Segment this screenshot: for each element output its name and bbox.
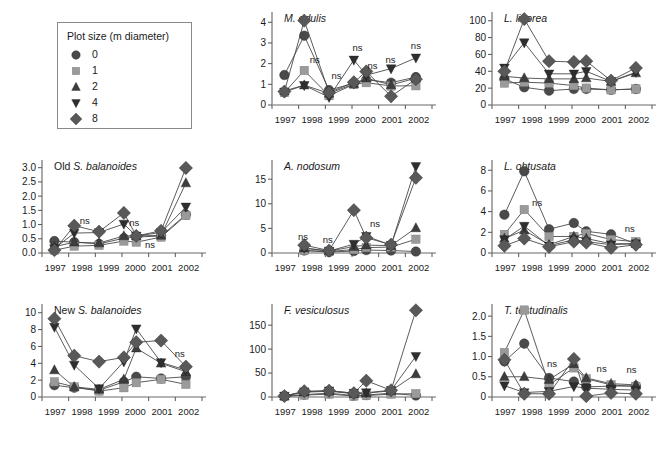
x-tick-label: 2002 <box>408 114 429 125</box>
x-tick-label: 2000 <box>575 114 596 125</box>
panel-l-obtusata: 02468199719981999200020012002L. obtusata… <box>452 152 664 293</box>
y-tick-label: 8 <box>30 324 36 335</box>
y-tick-label: 0.0 <box>22 247 36 258</box>
ns-annotation: ns <box>331 70 341 81</box>
square-marker-icon <box>69 64 82 77</box>
ns-annotation: ns <box>145 239 155 250</box>
x-tick-label: 2002 <box>178 406 199 417</box>
y-tick-label: 150 <box>249 320 266 331</box>
y-tick-label: 1.5 <box>22 205 36 216</box>
ns-annotation: ns <box>129 217 139 228</box>
panel-title: New S. balanoides <box>54 304 142 316</box>
y-tick-label: 10 <box>255 198 267 209</box>
x-tick-label: 1998 <box>301 114 322 125</box>
y-tick-label: 40 <box>475 66 487 77</box>
x-tick-label: 2002 <box>408 262 429 273</box>
plot-old-s-balanoides: 0.00.51.01.52.02.53.01997199819992000200… <box>2 152 214 293</box>
y-tick-label: 2 <box>260 58 266 69</box>
panel-old-s-balanoides: 0.00.51.01.52.02.53.01997199819992000200… <box>2 152 214 293</box>
ns-annotation: ns <box>532 197 542 208</box>
x-tick-label: 1997 <box>45 406 66 417</box>
x-tick-label: 1999 <box>98 262 119 273</box>
series-markers-8 <box>48 312 193 373</box>
x-tick-label: 2000 <box>355 406 376 417</box>
x-tick-label: 1997 <box>275 406 296 417</box>
plot-a-nodosum: 051015199719981999200020012002A. nodosum… <box>232 152 444 293</box>
figure-panel-grid: Plot size (m diameter) 01248 01234199719… <box>0 0 670 449</box>
x-tick-label: 1999 <box>548 406 569 417</box>
x-tick-label: 2002 <box>628 262 649 273</box>
legend-entry-label: 8 <box>92 113 98 124</box>
y-tick-label: 2.0 <box>22 191 36 202</box>
x-tick-label: 2002 <box>408 406 429 417</box>
y-tick-label: 6 <box>480 185 486 196</box>
y-tick-label: 1.0 <box>22 219 36 230</box>
y-tick-label: 50 <box>255 367 267 378</box>
triangle-down-marker-icon <box>69 96 82 109</box>
x-tick-label: 1998 <box>71 262 92 273</box>
y-tick-label: 0 <box>30 391 36 402</box>
y-tick-label: 2.5 <box>22 176 36 187</box>
x-tick-label: 1999 <box>548 114 569 125</box>
series-line-2 <box>304 228 416 251</box>
x-tick-label: 2000 <box>575 406 596 417</box>
ns-annotation: ns <box>367 60 377 71</box>
y-tick-label: 2 <box>480 227 486 238</box>
y-tick-label: 100 <box>469 15 486 26</box>
y-tick-label: 20 <box>475 83 487 94</box>
legend-entry-label: 2 <box>92 81 98 92</box>
y-tick-label: 2.0 <box>472 311 486 322</box>
y-tick-label: 5 <box>260 223 266 234</box>
ns-annotation: ns <box>370 218 380 229</box>
ns-annotation: ns <box>323 234 333 245</box>
x-tick-label: 1998 <box>71 406 92 417</box>
y-tick-label: 0 <box>480 99 486 110</box>
x-tick-label: 2001 <box>381 114 402 125</box>
panel-title: Old S. balanoides <box>54 160 138 172</box>
series-markers-4 <box>280 54 421 102</box>
ns-annotation: ns <box>175 348 185 359</box>
y-tick-label: 0 <box>260 247 266 258</box>
plot-t-testudinalis: 00.51.01.52.0199719981999200020012002T. … <box>452 296 664 437</box>
ns-annotation: ns <box>353 42 363 53</box>
x-tick-label: 1998 <box>521 114 542 125</box>
x-tick-label: 2002 <box>628 406 649 417</box>
legend-entry-4: 4 <box>69 96 98 109</box>
x-tick-label: 2000 <box>355 262 376 273</box>
y-tick-label: 2 <box>30 375 36 386</box>
x-tick-label: 1997 <box>495 114 516 125</box>
x-tick-label: 1999 <box>548 262 569 273</box>
y-tick-label: 10 <box>25 307 37 318</box>
ns-annotation: ns <box>597 363 607 374</box>
ns-annotation: ns <box>80 215 90 226</box>
y-tick-label: 0.5 <box>22 233 36 244</box>
panel-title: T. testudinalis <box>504 304 569 316</box>
x-tick-label: 2002 <box>628 114 649 125</box>
legend-entry-2: 2 <box>69 80 98 93</box>
y-tick-label: 100 <box>249 344 266 355</box>
y-tick-label: 4 <box>480 206 486 217</box>
legend-title: Plot size (m diameter) <box>67 30 169 42</box>
series-markers-8 <box>498 352 643 403</box>
legend-entry-8: 8 <box>69 112 98 125</box>
x-tick-label: 2002 <box>178 262 199 273</box>
x-tick-label: 2001 <box>151 406 172 417</box>
legend-entry-0: 0 <box>69 48 98 61</box>
x-tick-label: 2001 <box>601 262 622 273</box>
x-tick-label: 1998 <box>301 262 322 273</box>
y-tick-label: 3.0 <box>22 162 36 173</box>
y-tick-label: 1.0 <box>472 351 486 362</box>
y-tick-label: 6 <box>30 341 36 352</box>
panel-new-s-balanoides: 0246810199719981999200020012002New S. ba… <box>2 296 214 437</box>
y-tick-label: 4 <box>30 358 36 369</box>
x-tick-label: 2000 <box>575 262 596 273</box>
x-tick-label: 1997 <box>45 262 66 273</box>
ns-annotation: ns <box>386 54 396 65</box>
panel-title: L. obtusata <box>504 160 556 172</box>
diamond-marker-icon <box>69 112 82 125</box>
x-tick-label: 2001 <box>601 114 622 125</box>
circle-marker-icon <box>69 48 82 61</box>
ns-annotation: ns <box>310 54 320 65</box>
legend-entry-label: 0 <box>92 49 98 60</box>
panel-f-vesiculosus: 050100150199719981999200020012002F. vesi… <box>232 296 444 437</box>
